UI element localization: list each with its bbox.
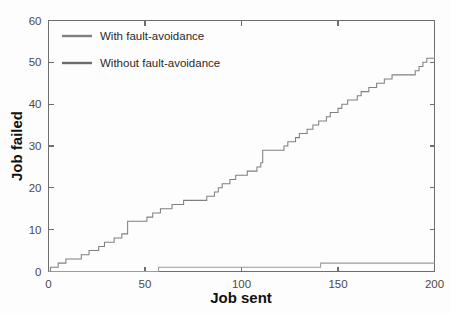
y-axis-title: Job failed [8,111,25,181]
y-tick-label: 50 [29,56,42,68]
x-tick-label: 50 [139,278,152,290]
chart-figure: 050100150200 0102030405060 With fault-av… [0,0,451,313]
x-tick-label: 0 [45,278,51,290]
y-tick-label: 10 [29,224,42,236]
x-tick-label: 150 [328,278,347,290]
y-tick-label: 20 [29,182,42,194]
y-tick-label: 0 [35,266,41,278]
y-tick-label: 40 [29,98,42,110]
y-axis-tick-labels: 0102030405060 [29,15,42,278]
y-tick-label: 60 [29,15,42,27]
x-axis-tick-labels: 050100150200 [45,278,444,290]
series-line-with-fault-avoidance [49,54,435,272]
chart-legend: With fault-avoidanceWithout fault-avoida… [62,30,220,69]
x-axis-title: Job sent [210,289,272,306]
data-series-group [49,54,435,272]
x-tick-label: 200 [425,278,444,290]
y-tick-label: 30 [29,140,42,152]
chart-canvas: 050100150200 0102030405060 With fault-av… [0,0,451,313]
x-tick-label: 100 [232,278,251,290]
legend-label-0: With fault-avoidance [100,30,204,42]
legend-label-1: Without fault-avoidance [100,57,220,69]
